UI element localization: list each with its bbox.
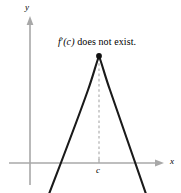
curve-left-branch: [49, 56, 99, 193]
y-axis-arrowhead: [27, 16, 34, 25]
y-axis-label: y: [25, 3, 29, 12]
x-tick-label-c: c: [96, 166, 100, 175]
x-axis-label: x: [170, 157, 174, 166]
cusp-point-marker: [96, 53, 102, 59]
annotation-phrase: does not exist.: [75, 36, 137, 47]
figure-canvas: [0, 0, 181, 193]
cusp-derivative-figure: f′(c) does not exist. y x c: [0, 0, 181, 193]
annotation-argument: (c): [63, 36, 74, 47]
curve-right-branch: [99, 56, 146, 193]
annotation-derivative-does-not-exist: f′(c) does not exist.: [58, 37, 136, 47]
x-axis-arrowhead: [155, 160, 164, 167]
